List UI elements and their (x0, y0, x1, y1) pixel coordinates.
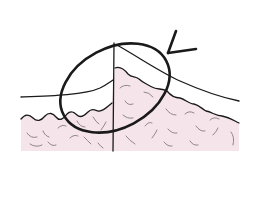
skin-surface-left (21, 80, 113, 97)
medical-diagram (0, 0, 257, 224)
diagram-canvas (0, 0, 257, 224)
arrow-icon (168, 31, 196, 53)
tissue-fill (21, 67, 239, 151)
